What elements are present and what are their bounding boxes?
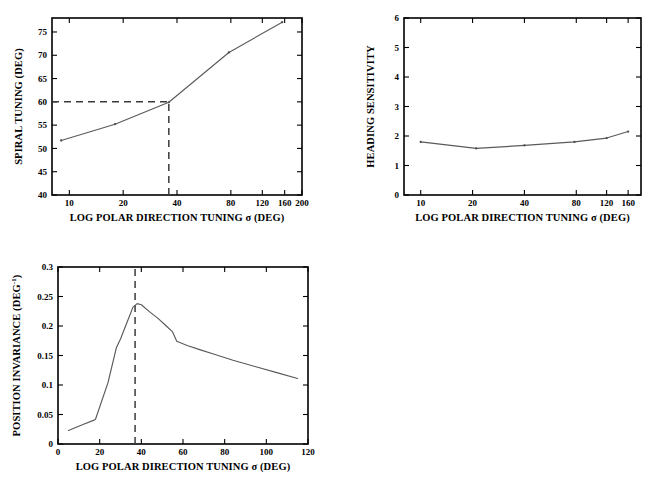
y-tick-label: 50 (38, 144, 48, 154)
x-tick-label: 160 (621, 198, 635, 208)
y-tick-label: 60 (38, 97, 48, 107)
spiral-tuning-chart: 102040801201602004045505560657075LOG POL… (0, 0, 340, 250)
data-point (114, 123, 116, 125)
data-point (60, 139, 62, 141)
x-tick-label: 160 (278, 198, 292, 208)
x-axis-title: LOG POLAR DIRECTION TUNING σ (DEG) (70, 212, 285, 224)
y-tick-label: 4 (395, 72, 400, 82)
y-tick-label: 70 (38, 50, 48, 60)
y-tick-label: 3 (395, 102, 400, 112)
y-axis-title: SPIRAL TUNING (DEG) (13, 48, 25, 165)
spiral-tuning-panel: 102040801201602004045505560657075LOG POL… (0, 0, 340, 250)
y-tick-label: 0.1 (42, 380, 54, 390)
y-tick-label: 55 (38, 120, 48, 130)
y-axis-title: POSITION INVARIANCE (DEG-1) (10, 274, 23, 436)
x-axis-title: LOG POLAR DIRECTION TUNING σ (DEG) (415, 212, 630, 224)
data-point (420, 141, 422, 143)
y-tick-label: 0 (395, 190, 400, 200)
y-tick-label: 0.15 (37, 351, 53, 361)
x-tick-label: 80 (226, 198, 236, 208)
data-point (523, 144, 525, 146)
data-curve (68, 304, 297, 431)
x-tick-label: 20 (119, 198, 129, 208)
y-axis-title: HEADING SENSITIVITY (365, 45, 376, 168)
y-tick-label: 45 (38, 167, 48, 177)
y-tick-label: 0.25 (37, 292, 53, 302)
x-tick-label: 120 (600, 198, 614, 208)
y-tick-label: 0.2 (42, 321, 54, 331)
x-tick-label: 40 (173, 198, 183, 208)
y-tick-label: 75 (38, 27, 48, 37)
x-tick-label: 60 (179, 447, 189, 457)
data-point (228, 51, 230, 53)
data-point (281, 21, 283, 23)
plot-frame (52, 18, 302, 195)
figure-caption-partial (0, 492, 653, 504)
x-axis-title: LOG POLAR DIRECTION TUNING σ (DEG) (76, 461, 291, 473)
x-tick-label: 40 (520, 198, 530, 208)
position-invariance-chart: 02040608010012000.050.10.150.20.250.3LOG… (0, 252, 340, 492)
y-tick-label: 2 (395, 131, 400, 141)
x-tick-label: 0 (56, 447, 61, 457)
y-tick-label: 0.05 (37, 410, 53, 420)
y-tick-label: 5 (395, 43, 400, 53)
x-tick-label: 80 (220, 447, 230, 457)
y-tick-label: 40 (38, 190, 48, 200)
position-invariance-panel: 02040608010012000.050.10.150.20.250.3LOG… (0, 252, 340, 492)
data-point (573, 141, 575, 143)
y-tick-label: 1 (395, 161, 400, 171)
plot-frame (404, 18, 641, 195)
y-tick-label: 0 (49, 439, 54, 449)
data-curve (61, 22, 282, 140)
data-point (605, 137, 607, 139)
x-tick-label: 120 (256, 198, 270, 208)
y-tick-label: 65 (38, 74, 48, 84)
x-tick-label: 10 (65, 198, 75, 208)
x-tick-label: 120 (301, 447, 315, 457)
heading-sensitivity-panel: 102040801201600123456LOG POLAR DIRECTION… (352, 0, 653, 250)
data-point (475, 147, 477, 149)
x-tick-label: 200 (295, 198, 309, 208)
x-tick-label: 100 (260, 447, 274, 457)
x-tick-label: 10 (416, 198, 426, 208)
y-tick-label: 6 (395, 13, 400, 23)
y-tick-label: 0.3 (42, 262, 54, 272)
figure-canvas: 102040801201602004045505560657075LOG POL… (0, 0, 653, 504)
heading-sensitivity-chart: 102040801201600123456LOG POLAR DIRECTION… (352, 0, 653, 250)
x-tick-label: 40 (137, 447, 147, 457)
x-tick-label: 20 (95, 447, 105, 457)
data-point (627, 130, 629, 132)
x-tick-label: 20 (468, 198, 478, 208)
data-point (168, 101, 170, 103)
x-tick-label: 80 (572, 198, 582, 208)
